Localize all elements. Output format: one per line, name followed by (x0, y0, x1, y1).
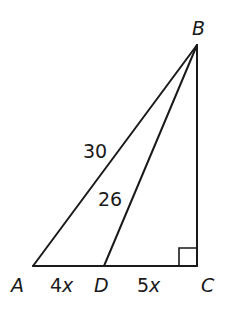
vertex-label-d: D (94, 274, 109, 296)
segment-db (104, 45, 197, 266)
segment-label-db: 26 (98, 188, 122, 210)
segment-label-ab: 30 (83, 140, 107, 162)
segment-label-dc: 5x (137, 274, 161, 296)
triangle-diagram: B A D C 30 26 4x 5x (0, 0, 228, 315)
vertex-label-b: B (192, 17, 205, 39)
segment-label-ad: 4x (50, 274, 74, 296)
vertex-label-a: A (9, 274, 24, 296)
segment-ab (33, 45, 197, 266)
right-angle-marker-icon (179, 248, 197, 266)
vertex-label-c: C (201, 274, 215, 296)
